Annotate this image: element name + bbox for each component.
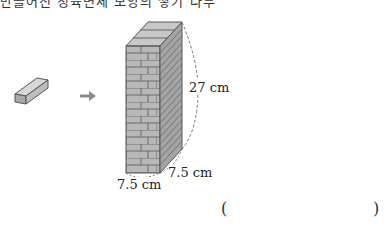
front-width-label: 7.5 cm (117, 177, 161, 192)
tower-front-face (126, 46, 160, 173)
answer-open-paren: ( (221, 199, 227, 218)
height-label: 27 cm (189, 80, 229, 95)
answer-blank[interactable] (232, 199, 367, 221)
side-width-label: 7.5 cm (168, 165, 212, 180)
arrow-right-icon (80, 91, 96, 101)
answer-close-paren: ) (373, 199, 379, 218)
single-block-icon (15, 78, 48, 104)
